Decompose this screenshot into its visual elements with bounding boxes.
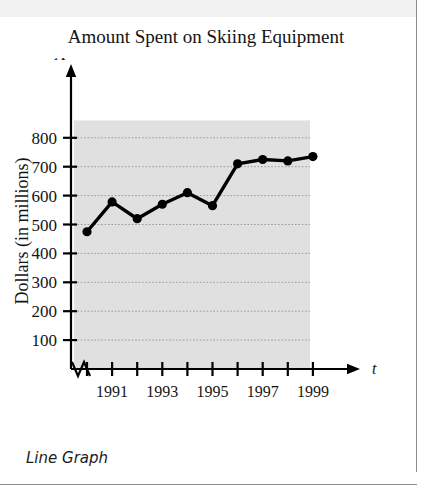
page-title: Amount Spent on Skiing Equipment [0, 26, 412, 48]
x-tick-label-1993: 1993 [146, 383, 178, 400]
data-point-1991 [108, 197, 117, 206]
x-axis-arrowhead [347, 364, 360, 374]
y-tick-label-800: 800 [32, 129, 58, 148]
x-axis-title: Year [180, 415, 213, 418]
x-axis-variable: t [372, 360, 377, 377]
y-tick-label-700: 700 [32, 158, 58, 177]
x-tick-label-1991: 1991 [96, 383, 128, 400]
data-point-1999 [308, 152, 317, 161]
x-tick-label-1999: 1999 [297, 383, 329, 400]
data-point-1994 [183, 188, 192, 197]
y-tick-label-600: 600 [32, 187, 58, 206]
y-tick-label-500: 500 [32, 216, 58, 235]
plot-background [74, 120, 310, 369]
data-point-1992 [133, 214, 142, 223]
data-point-1993 [158, 200, 167, 209]
y-axis-title: Dollars (in millions) [12, 158, 33, 305]
y-tick-label-300: 300 [32, 273, 58, 292]
data-point-1990 [82, 227, 91, 236]
y-tick-label-400: 400 [32, 244, 58, 263]
x-tick-label-1995: 1995 [197, 383, 229, 400]
plot-background-group [74, 120, 310, 369]
y-axis-variable: A [54, 58, 65, 63]
y-tick-label-100: 100 [32, 331, 58, 350]
y-tick-label-200: 200 [32, 302, 58, 321]
data-point-1995 [208, 201, 217, 210]
x-tick-label-1997: 1997 [247, 383, 279, 400]
line-chart: 100200300400500600700800 199119931995199… [0, 58, 412, 418]
figure-container: Amount Spent on Skiing Equipment 1002003… [0, 0, 429, 495]
y-axis-arrowhead [66, 64, 76, 77]
data-point-1998 [283, 156, 292, 165]
bottom-border-rule [0, 484, 417, 485]
figure-caption: Line Graph [26, 449, 108, 467]
data-point-1997 [258, 155, 267, 164]
data-point-1996 [233, 159, 242, 168]
right-border-rule [416, 0, 417, 472]
chart-area: 100200300400500600700800 199119931995199… [0, 58, 412, 418]
top-band [0, 0, 417, 17]
